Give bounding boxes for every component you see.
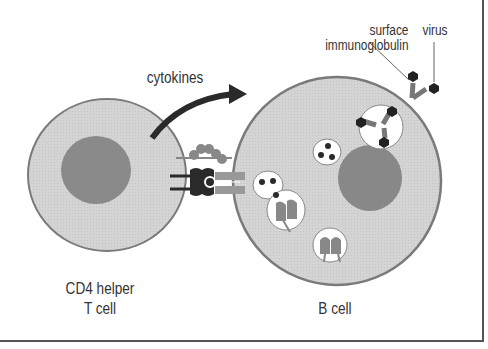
label-surface-ig-line1: surface — [324, 23, 409, 38]
label-cytokines: cytokines — [137, 69, 214, 87]
vesicle-lower — [313, 228, 347, 262]
label-t-cell-line2: T cell — [49, 300, 151, 318]
vesicle-dots — [313, 139, 341, 165]
label-surface-ig-line2: immunoglobulin — [324, 38, 409, 53]
label-b-cell: B cell — [297, 300, 374, 318]
label-virus: virus — [414, 23, 457, 38]
t-cell-nucleus — [61, 136, 131, 204]
b-cell-nucleus — [338, 145, 402, 211]
label-t-cell-line1: CD4 helper — [49, 280, 151, 298]
